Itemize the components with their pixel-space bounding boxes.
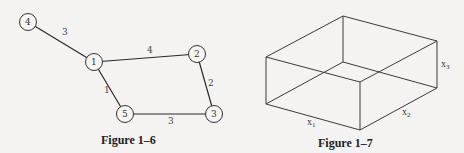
box-edge-back-left [266,62,343,104]
figures-canvas: 3 4 2 1 3 1 2 3 4 5 Figure 1–6 [0,0,464,153]
label-x3: x3 [441,58,450,71]
edge-weight-4-1: 3 [62,27,68,37]
label-x2: x2 [402,106,411,119]
edge-1-2 [94,54,197,62]
figure-1-7: x1 x2 x3 Figure 1–7 [266,16,450,150]
node-label: 4 [25,17,31,27]
edge-weight-5-3: 3 [168,116,174,126]
graph-node-2: 2 [189,46,206,63]
figure-1-6: 3 4 2 1 3 1 2 3 4 5 Figure 1–6 [20,14,223,148]
node-label: 1 [91,57,97,67]
edge-weight-1-2: 4 [147,45,153,55]
graph-node-1: 1 [86,54,103,71]
edge-weight-2-3: 2 [208,78,214,88]
edge-weight-1-5: 1 [104,85,110,95]
edge-4-1 [28,22,94,62]
graph-node-4: 4 [20,14,37,31]
node-label: 2 [194,49,200,59]
graph-node-5: 5 [117,106,134,123]
node-label: 5 [122,109,128,119]
figure-caption: Figure 1–6 [101,133,156,147]
graph-node-3: 3 [206,106,223,123]
node-label: 3 [211,109,217,119]
figure-caption: Figure 1–7 [318,136,373,150]
box-edge [360,88,437,130]
box-top-face [266,16,437,82]
